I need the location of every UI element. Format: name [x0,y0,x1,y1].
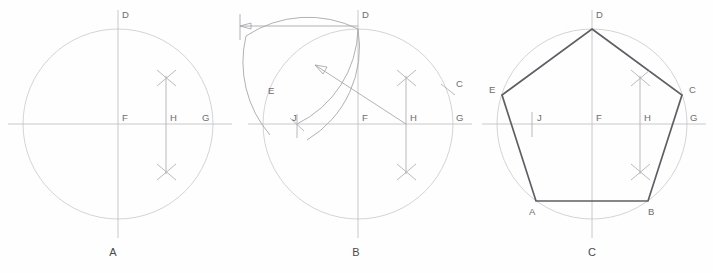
panel-c-label-D: D [596,9,603,20]
panel-c-arc-cross-bottom [631,164,650,180]
panel-c-label-A: A [529,206,536,217]
panel-label-a: A [109,246,117,258]
panel-b-label-G: G [456,112,463,123]
panel-c-arc-cross-top [631,70,650,86]
panel-b-radius-arrow-line [315,65,406,124]
panel-b-arc-cross-top [397,70,416,86]
drawing-canvas: D F H G A [0,0,713,273]
panel-b-label-J: J [292,112,297,123]
panel-c-label-G: G [690,112,697,123]
panel-a-arc-cross-bottom [157,164,176,180]
pentagon-construction-figure: D F H G A [0,0,713,273]
panel-b-label-H: H [410,112,417,123]
panel-c-label-B: B [648,206,654,217]
panel-b-arc-chord-upper [246,17,358,36]
panel-c-label-C: C [689,84,696,95]
panel-c-label-F: F [596,112,602,123]
panel-b-arc-d-to-j [297,29,358,124]
panel-a-label-G: G [202,112,209,123]
panel-label-c: C [588,246,596,258]
panel-a-arc-cross-top [157,70,176,86]
panel-c-label-E: E [489,84,495,95]
panel-b-label-C: C [456,78,463,89]
panel-a-label-H: H [170,112,177,123]
panel-b-label-D: D [362,9,369,20]
panel-a-label-F: F [122,112,128,123]
panel-a-label-D: D [122,9,129,20]
panel-b: D E J F H C G B [240,9,472,258]
panel-c-label-J: J [537,112,542,123]
panel-b-arc-chord-lower [243,36,270,135]
panel-b-label-E: E [268,85,274,96]
panel-b-arc-d-to-j-extension [307,29,360,140]
panel-c-label-H: H [644,112,651,123]
panel-label-b: B [352,246,359,258]
panel-c: D E C A B J F H G C [482,9,706,258]
panel-b-arc-cross-bottom [397,164,416,180]
panel-a: D F H G A [8,9,232,258]
panel-b-label-F: F [362,112,368,123]
